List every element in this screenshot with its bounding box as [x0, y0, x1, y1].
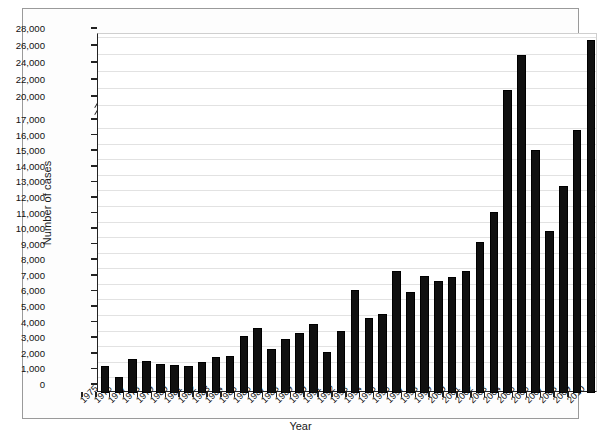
y-tick-label: 13,000	[1, 176, 45, 187]
y-tick-label: 22,000	[1, 74, 45, 85]
bar-1997	[406, 292, 415, 393]
bar-chart-figure: Number of cases 01,0002,0003,0004,0005,0…	[0, 0, 601, 433]
y-tick-label: 26,000	[1, 40, 45, 51]
bars-container	[98, 34, 596, 391]
bar-2003	[490, 212, 499, 393]
bar-2010	[587, 40, 596, 393]
bar-2001	[462, 271, 471, 393]
bar-2007	[545, 231, 554, 393]
y-tick-mark	[91, 27, 97, 29]
bar-2005	[517, 55, 526, 393]
bar-1996	[392, 271, 401, 393]
y-tick-label: 17,000	[1, 114, 45, 125]
x-axis-title: Year	[23, 420, 578, 432]
bar-2006	[531, 150, 540, 393]
y-tick-label: 6,000	[1, 285, 45, 296]
y-tick-label: 24,000	[1, 57, 45, 68]
bar-2000	[448, 277, 457, 393]
y-tick-label: 5,000	[1, 301, 45, 312]
y-tick-label: 12,000	[1, 191, 45, 202]
y-tick-label: 9,000	[1, 238, 45, 249]
bar-2008	[559, 186, 568, 393]
bar-2004	[503, 90, 512, 393]
bar-2009	[573, 130, 582, 393]
y-tick-label: 4,000	[1, 316, 45, 327]
y-tick-label: 11,000	[1, 207, 45, 218]
y-tick-label: 0	[1, 379, 45, 390]
y-tick-label: 10,000	[1, 223, 45, 234]
bar-1986	[253, 328, 262, 393]
bar-1998	[420, 276, 429, 393]
y-tick-label: 15,000	[1, 145, 45, 156]
y-tick-label: 20,000	[1, 91, 45, 102]
bar-1999	[434, 281, 443, 393]
bar-1993	[351, 290, 360, 393]
bar-1994	[365, 318, 374, 393]
y-tick-label: 16,000	[1, 129, 45, 140]
y-tick-label: 1,000	[1, 363, 45, 374]
figure-frame: Number of cases 01,0002,0003,0004,0005,0…	[22, 8, 579, 419]
bar-1995	[378, 314, 387, 394]
y-tick-label: 28,000	[1, 23, 45, 34]
y-tick-label: 7,000	[1, 269, 45, 280]
bar-1990	[309, 324, 318, 393]
bar-2002	[476, 242, 485, 393]
y-tick-label: 14,000	[1, 160, 45, 171]
y-tick-label: 2,000	[1, 347, 45, 358]
y-tick-label: 8,000	[1, 254, 45, 265]
y-tick-label: 3,000	[1, 332, 45, 343]
plot-area	[97, 33, 597, 392]
